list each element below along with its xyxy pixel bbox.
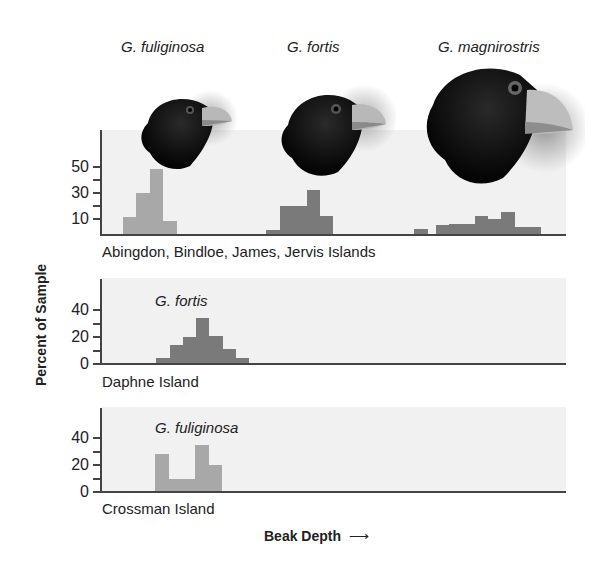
bottom-species-label: G. fuliginosa [155, 419, 238, 436]
bar [223, 349, 236, 363]
top-x-axis [100, 234, 566, 236]
bar [195, 445, 209, 491]
middle-tick-label-40: 40 [59, 302, 89, 318]
bar [209, 336, 223, 363]
middle-species-label: G. fortis [155, 292, 208, 309]
top-tick-label-50: 50 [59, 159, 89, 175]
y-axis-label: Percent of Sample [33, 264, 49, 386]
middle-tick-label-20: 20 [59, 329, 89, 345]
bar [475, 216, 488, 234]
island-label-bottom: Crossman Island [102, 500, 215, 517]
bar [150, 169, 163, 234]
island-label-middle: Daphne Island [102, 373, 199, 390]
arrow-right-icon: ⟶ [349, 528, 369, 544]
bar [183, 337, 196, 363]
bottom-tick-label-20: 20 [59, 457, 89, 473]
bottom-tick-label-0: 0 [59, 484, 89, 500]
top-tick-20 [93, 205, 100, 207]
bar [155, 454, 169, 491]
bar [266, 230, 280, 234]
bar [436, 225, 449, 234]
bar [488, 219, 501, 234]
finch-head-fortis-icon [266, 80, 396, 185]
middle-x-axis [100, 363, 566, 365]
bottom-x-axis [100, 491, 566, 493]
bottom-tick [93, 491, 100, 493]
middle-tick [93, 336, 100, 338]
bar [515, 227, 541, 234]
bar [209, 465, 222, 491]
bottom-y-axis [100, 408, 102, 493]
bar [123, 217, 136, 234]
bar [136, 193, 150, 234]
x-axis-label-text: Beak Depth [264, 528, 341, 544]
top-tick-40 [93, 179, 100, 181]
middle-tick-label-0: 0 [59, 356, 89, 372]
bar [170, 345, 183, 363]
middle-tick [93, 309, 100, 311]
bar [320, 216, 333, 234]
species-label-fortis: G. fortis [287, 38, 340, 55]
bottom-tick [93, 437, 100, 439]
bar [307, 190, 320, 234]
bottom-tick [93, 478, 100, 480]
island-label-top: Abingdon, Bindloe, James, Jervis Islands [102, 243, 375, 260]
top-y-axis [100, 130, 102, 236]
top-tick-10 [93, 218, 100, 220]
finch-head-magnirostris-icon [415, 60, 585, 190]
middle-tick [93, 323, 100, 325]
bar [169, 479, 182, 491]
middle-tick [93, 350, 100, 352]
bar [156, 358, 170, 363]
bar [501, 212, 515, 234]
bar [414, 229, 428, 234]
bottom-tick [93, 451, 100, 453]
species-label-magnirostris: G. magnirostris [438, 38, 540, 55]
top-tick-label-10: 10 [59, 211, 89, 227]
middle-y-axis [100, 279, 102, 365]
top-tick-30 [93, 192, 100, 194]
bar [236, 358, 249, 363]
finch-head-fuliginosa-icon [128, 88, 243, 178]
bottom-tick [93, 464, 100, 466]
bottom-tick-label-40: 40 [59, 430, 89, 446]
species-label-fuliginosa: G. fuliginosa [121, 38, 204, 55]
middle-tick [93, 363, 100, 365]
top-tick-50 [93, 166, 100, 168]
bar [280, 206, 307, 234]
x-axis-label: Beak Depth ⟶ [264, 528, 369, 544]
bar [163, 221, 177, 234]
bar [196, 318, 209, 363]
bar [182, 479, 195, 491]
bar [449, 224, 475, 234]
top-tick-label-30: 30 [59, 185, 89, 201]
